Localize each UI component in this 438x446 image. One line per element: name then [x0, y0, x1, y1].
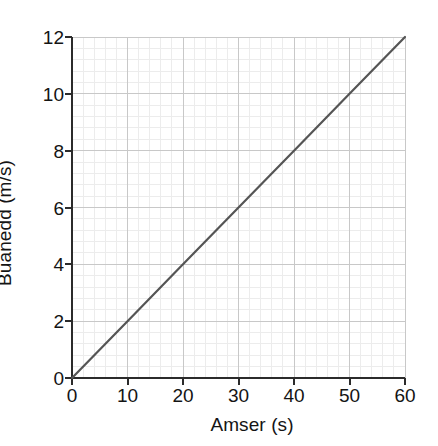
y-axis-tick-labels: 024681012 [28, 37, 64, 378]
y-tick-label: 0 [30, 369, 64, 388]
x-tick-label: 20 [160, 386, 206, 405]
y-tick-label: 4 [30, 255, 64, 274]
x-tick-label: 30 [216, 386, 262, 405]
velocity-time-chart: Buanedd (m/s) 024681012 0102030405060 Am… [0, 0, 438, 446]
x-axis-title: Amser (s) [72, 412, 432, 438]
x-tick-label: 0 [49, 386, 95, 405]
plot-svg [72, 37, 405, 378]
y-tick-label: 2 [30, 312, 64, 331]
x-tick-label: 50 [327, 386, 373, 405]
x-axis-tick-labels: 0102030405060 [72, 386, 405, 412]
x-tick-label: 10 [105, 386, 151, 405]
y-tick-label: 6 [30, 198, 64, 217]
x-tick-label: 60 [382, 386, 428, 405]
y-tick-label: 10 [30, 84, 64, 103]
y-tick-label: 12 [30, 28, 64, 47]
y-tick-label: 8 [30, 141, 64, 160]
x-tick-label: 40 [271, 386, 317, 405]
plot-area [72, 37, 405, 378]
